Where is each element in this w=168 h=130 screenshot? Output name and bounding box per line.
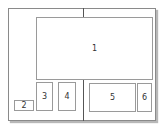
region-4: 4 (58, 82, 76, 111)
region-3: 3 (36, 82, 53, 111)
region-2-label: 2 (21, 101, 26, 110)
region-5: 5 (89, 83, 136, 112)
region-3-label: 3 (42, 92, 47, 101)
region-5-label: 5 (110, 93, 115, 102)
region-2: 2 (14, 100, 34, 111)
region-1: 1 (36, 17, 153, 80)
region-4-label: 4 (64, 92, 69, 101)
region-6-label: 6 (142, 93, 147, 102)
region-6: 6 (137, 83, 152, 112)
region-1-label: 1 (92, 44, 97, 53)
